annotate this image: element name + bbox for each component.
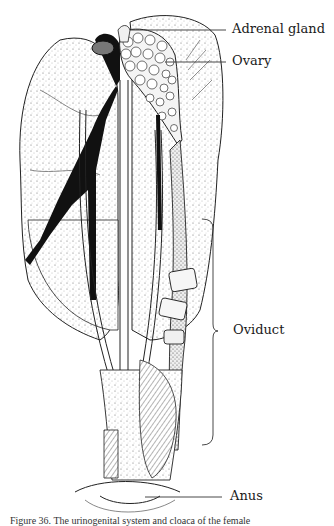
anatomical-illustration [0, 0, 334, 526]
figure-caption: Figure 36. The urinogenital system and c… [10, 515, 250, 526]
label-ovary: Ovary [232, 53, 271, 68]
label-adrenal-gland: Adrenal gland [232, 21, 325, 36]
adrenal-gland-illustration [118, 26, 130, 43]
label-anus: Anus [230, 488, 263, 503]
cloaca-illustration [75, 360, 182, 512]
label-oviduct: Oviduct [233, 322, 284, 337]
